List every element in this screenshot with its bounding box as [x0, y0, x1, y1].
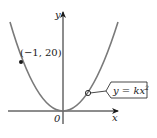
leader-line: [90, 91, 106, 93]
point-label: (−1, 20): [20, 47, 62, 58]
x-axis-label: x: [112, 112, 118, 123]
parabola-diagram: y = kx2 (−1, 20) y x 0: [0, 0, 157, 138]
equation-label: y = kx2: [112, 84, 149, 96]
origin-label: 0: [54, 113, 61, 124]
y-axis-label: y: [54, 9, 61, 20]
point-marker: [19, 60, 23, 64]
parabola-curve: [10, 22, 118, 111]
